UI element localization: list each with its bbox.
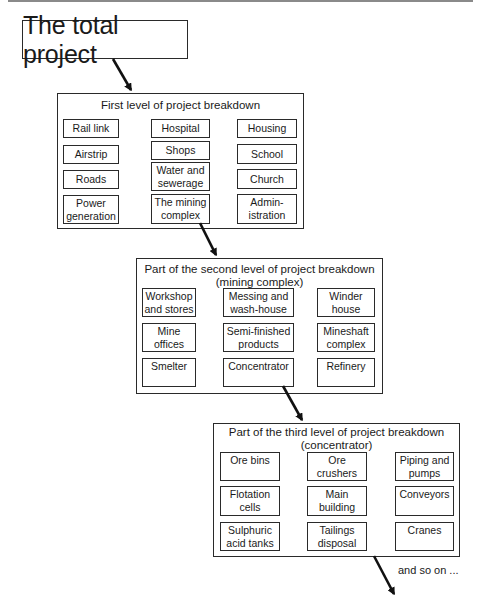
item-ore-crushers: Ore crushers [307,452,367,481]
total-project-box: The total project [22,20,188,59]
item-refinery: Refinery [317,358,375,387]
second-level-heading: Part of the second level of project brea… [137,263,382,289]
item-workshop-and-stores: Workshop and stores [142,288,196,317]
item-housing: Housing [237,119,297,138]
item-mine-offices: Mine offices [142,323,196,352]
item-airstrip: Airstrip [63,145,119,164]
total-project-label: The total project [23,11,187,69]
item-smelter: Smelter [142,358,196,387]
item-messing-and-wash-house: Messing and wash-house [223,288,294,317]
item-mineshaft-complex: Mineshaft complex [317,323,375,352]
item-semi-finished-products: Semi-finished products [223,323,294,352]
item-water-and-sewerage: Water and sewerage [151,162,210,191]
item-rail-link: Rail link [63,119,119,138]
item-school: School [237,144,297,164]
item-church: Church [237,169,297,189]
item-conveyors: Conveyors [395,486,454,516]
and-so-on-note: and so on ... [398,564,459,576]
item-winder-house: Winder house [317,288,375,317]
item-administration: Admin- istration [237,194,297,224]
item-hospital: Hospital [151,119,210,138]
item-roads: Roads [63,170,119,189]
item-tailings-disposal: Tailings disposal [307,522,367,551]
item-flotation-cells: Flotation cells [220,486,280,516]
first-level-heading: First level of project breakdown [58,99,303,112]
third-level-heading: Part of the third level of project break… [214,426,459,452]
top-rule [8,0,473,2]
item-shops: Shops [151,141,210,160]
item-power-generation: Power generation [63,195,119,224]
item-concentrator: Concentrator [223,358,294,387]
item-piping-and-pumps: Piping and pumps [395,452,454,481]
item-ore-bins: Ore bins [220,452,280,481]
item-main-building: Main building [307,486,367,516]
item-cranes: Cranes [395,522,454,551]
item-sulphuric-acid-tanks: Sulphuric acid tanks [220,522,280,551]
item-the-mining-complex: The mining complex [151,194,210,224]
